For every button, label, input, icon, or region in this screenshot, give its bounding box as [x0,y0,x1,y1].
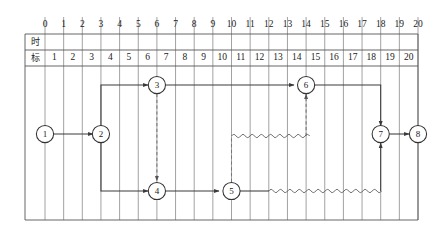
row-header-label: 时 标 [31,36,40,63]
tick-label: 0 [43,19,48,29]
node-label: 1 [43,129,48,139]
cell-label: 5 [127,52,132,62]
cell-label: 2 [71,52,76,62]
node-label: 5 [229,186,234,196]
node-label: 7 [378,129,383,139]
edge-2-4 [101,142,148,191]
tick-label: 13 [283,19,293,29]
node-label: 2 [99,129,104,139]
node-8[interactable]: 8 [409,125,426,142]
float-time-wavy-bars [232,134,382,192]
tick-label: 11 [246,19,255,29]
tick-label: 3 [99,19,104,29]
cell-label: 9 [201,52,206,62]
tick-label: 5 [136,19,141,29]
cell-label: 12 [255,52,265,62]
cell-label: 10 [217,52,227,62]
tick-label: 7 [173,19,178,29]
cell-label: 20 [404,52,414,62]
tick-label: 4 [117,19,122,29]
tick-label: 10 [227,19,237,29]
cell-label: 6 [145,52,150,62]
edge-6-7 [314,85,381,126]
cell-label: 15 [311,52,321,62]
tick-label: 12 [264,19,274,29]
svg-text:标: 标 [31,52,40,63]
cell-label: 16 [329,52,339,62]
cell-label: 8 [182,52,187,62]
node-2[interactable]: 2 [92,125,109,142]
tick-label: 18 [376,19,386,29]
node-label: 3 [155,80,160,90]
tick-label: 20 [413,19,423,29]
cell-label: 11 [236,52,245,62]
node-label: 6 [304,80,309,90]
diagram-canvas: 0 1 2 3 4 5 6 7 8 9 10 11 12 13 14 15 16… [0,0,443,241]
node-1[interactable]: 1 [36,125,53,142]
time-scale-cell-labels: 1 2 3 4 5 6 7 8 9 10 11 12 13 14 15 16 1… [52,52,414,62]
tick-label: 14 [301,19,311,29]
tick-label: 15 [320,19,330,29]
tick-label: 2 [80,19,85,29]
cell-label: 13 [273,52,283,62]
node-7[interactable]: 7 [372,125,389,142]
tick-label: 19 [395,19,405,29]
cell-label: 18 [367,52,377,62]
cell-label: 7 [164,52,169,62]
cell-label: 1 [52,52,57,62]
node-label: 4 [155,186,160,196]
node-3[interactable]: 3 [148,76,165,93]
edge-2-3 [101,85,148,126]
top-axis-tick-labels: 0 1 2 3 4 5 6 7 8 9 10 11 12 13 14 15 16… [43,19,423,29]
cell-label: 3 [89,52,94,62]
node-label: 8 [416,129,421,139]
cell-label: 14 [292,52,302,62]
tick-label: 17 [357,19,367,29]
cell-label: 17 [348,52,358,62]
tick-label: 9 [210,19,215,29]
network-diagram-figure: 0 1 2 3 4 5 6 7 8 9 10 11 12 13 14 15 16… [0,0,443,241]
node-6[interactable]: 6 [298,76,315,93]
cell-label: 19 [385,52,395,62]
node-4[interactable]: 4 [148,182,165,199]
svg-text:时: 时 [31,36,40,47]
tick-label: 1 [61,19,66,29]
cell-label: 4 [108,52,113,62]
tick-label: 8 [192,19,197,29]
tick-label: 6 [155,19,160,29]
node-5[interactable]: 5 [223,182,240,199]
float-bar-upper [232,134,310,137]
tick-label: 16 [339,19,349,29]
float-bar-lower [269,189,382,192]
